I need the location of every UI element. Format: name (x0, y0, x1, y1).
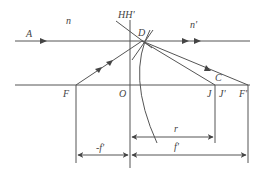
label-n-prime: n' (190, 20, 197, 30)
arrow-ray-a (40, 38, 47, 44)
arrow-ray-out-1 (182, 38, 189, 44)
optics-diagram: A n HH' D n' C F O J J' F' r -f' f' (0, 0, 262, 169)
label-f-prime-dim: f' (174, 142, 179, 152)
arrow-ray-fd-2 (106, 60, 113, 66)
label-o: O (119, 89, 126, 99)
spherical-surface (140, 30, 157, 143)
label-f-prime: F' (239, 89, 247, 99)
label-a: A (26, 29, 32, 39)
arrow-ray-out-2 (194, 38, 201, 44)
ray-d-c (142, 41, 215, 85)
label-n: n (66, 16, 71, 26)
label-r: r (174, 124, 178, 134)
label-hh-prime: HH' (118, 10, 135, 20)
label-f: F (63, 89, 69, 99)
label-j: J (207, 89, 211, 99)
arrow-ray-dc (204, 65, 211, 71)
label-minus-f-prime: -f' (96, 143, 104, 153)
label-j-prime: J' (219, 89, 226, 99)
label-d: D (138, 28, 145, 38)
label-c: C (215, 73, 222, 83)
ray-d-fprime (142, 41, 248, 85)
diagram-canvas (0, 0, 262, 169)
